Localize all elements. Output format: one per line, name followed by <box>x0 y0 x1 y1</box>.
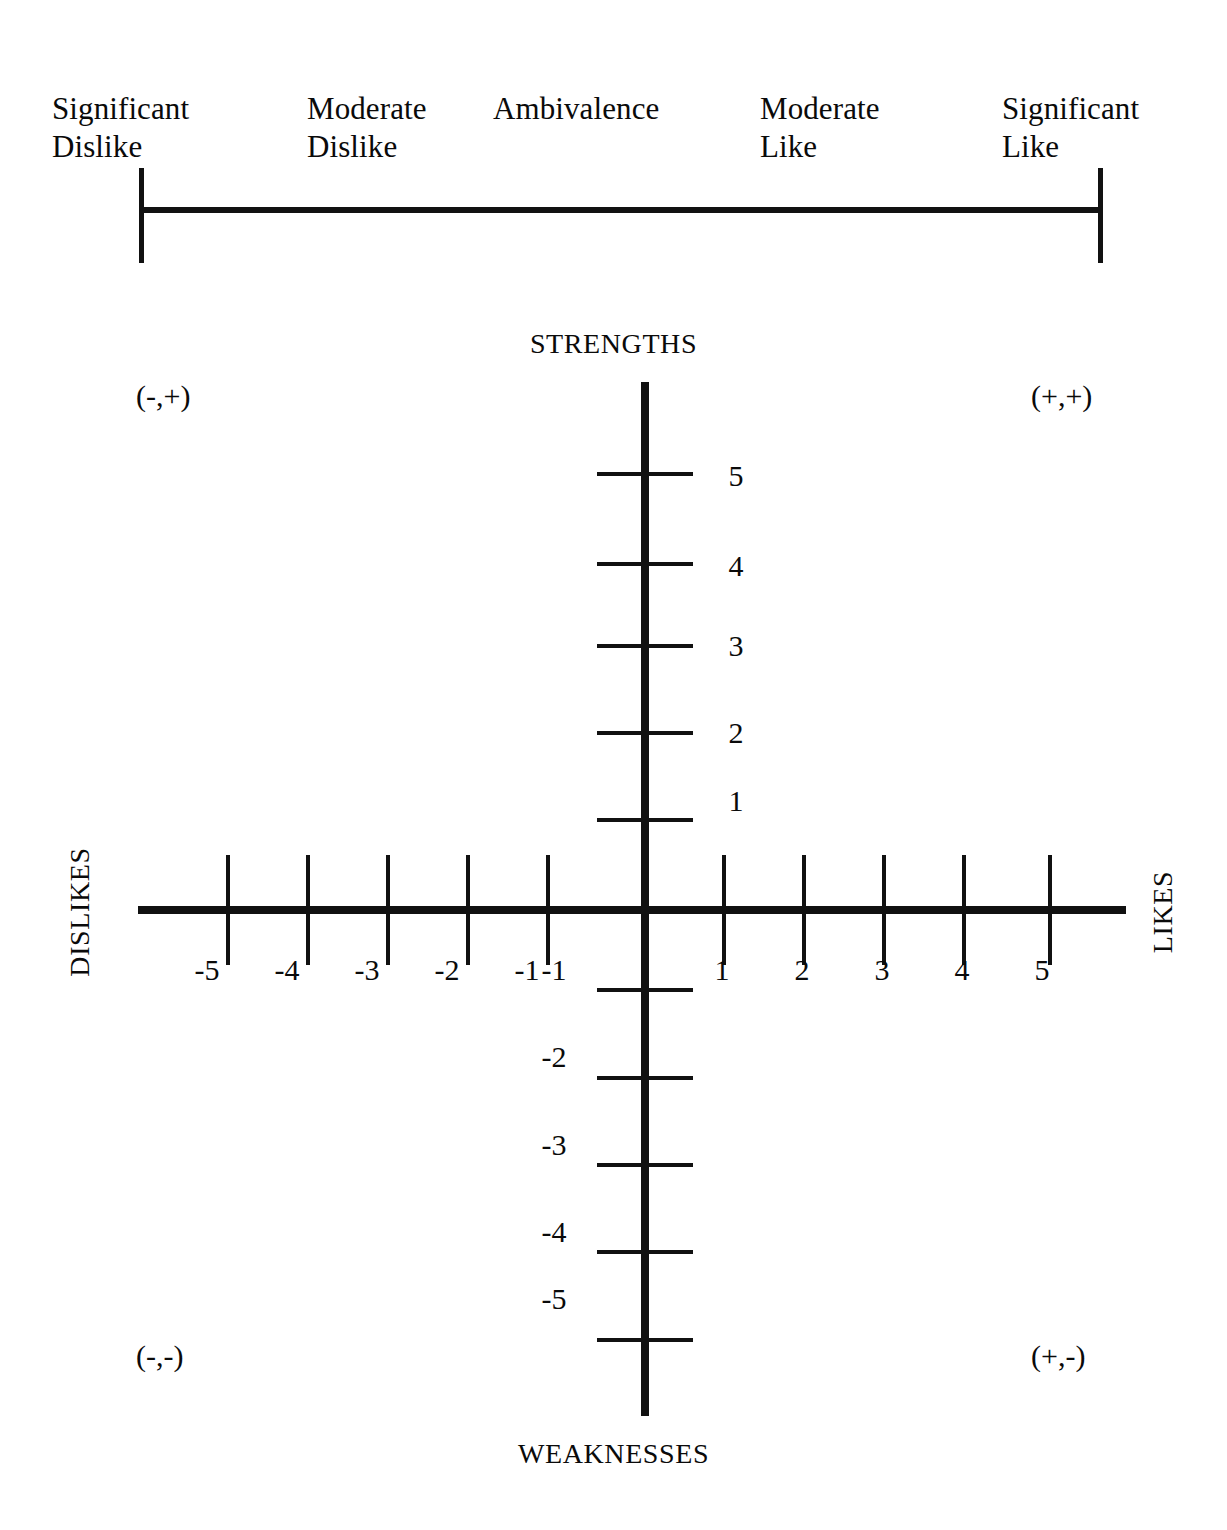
x-tick-mark <box>466 855 470 965</box>
x-tick-mark <box>226 855 230 965</box>
x-tick-mark <box>546 855 550 965</box>
axis-title-weaknesses: WEAKNESSES <box>0 1438 1227 1470</box>
axis-title-dislikes: DISLIKES <box>64 812 96 1012</box>
y-tick-label: 2 <box>705 718 767 748</box>
x-tick-mark <box>386 855 390 965</box>
y-axis-line <box>641 382 649 1416</box>
y-tick-label: 5 <box>705 461 767 491</box>
x-tick-mark <box>306 855 310 965</box>
x-tick-mark <box>722 855 726 965</box>
y-tick-mark <box>597 472 693 476</box>
x-tick-label: -4 <box>257 955 317 985</box>
x-tick-mark <box>802 855 806 965</box>
x-tick-label: -3 <box>337 955 397 985</box>
y-tick-label: -4 <box>523 1217 585 1247</box>
quadrant-grid: STRENGTHS WEAKNESSES DISLIKES LIKES (-,+… <box>0 0 1227 1530</box>
y-tick-mark <box>597 818 693 822</box>
y-tick-mark <box>597 1163 693 1167</box>
y-tick-mark <box>597 1250 693 1254</box>
figure-canvas: Significant Dislike Moderate Dislike Amb… <box>0 0 1227 1530</box>
y-tick-label: 1 <box>705 786 767 816</box>
x-tick-label: 5 <box>1012 955 1072 985</box>
x-tick-label: -2 <box>417 955 477 985</box>
y-tick-label: -2 <box>523 1042 585 1072</box>
y-tick-mark <box>597 562 693 566</box>
y-tick-label: -1 <box>523 955 585 985</box>
y-tick-mark <box>597 1076 693 1080</box>
y-tick-mark <box>597 731 693 735</box>
y-tick-mark <box>597 644 693 648</box>
quadrant-label-bottom-right: (+,-) <box>1031 1339 1085 1373</box>
axis-title-likes: LIKES <box>1147 812 1179 1012</box>
x-tick-label: 2 <box>772 955 832 985</box>
x-tick-label: -5 <box>177 955 237 985</box>
x-axis-line <box>138 906 1126 914</box>
x-tick-mark <box>1048 855 1052 965</box>
x-tick-mark <box>962 855 966 965</box>
y-tick-mark <box>597 1338 693 1342</box>
y-tick-label: -3 <box>523 1130 585 1160</box>
y-tick-label: 4 <box>705 551 767 581</box>
x-tick-label: 1 <box>692 955 752 985</box>
quadrant-label-top-right: (+,+) <box>1031 379 1092 413</box>
axis-title-strengths: STRENGTHS <box>0 328 1227 360</box>
x-tick-mark <box>882 855 886 965</box>
quadrant-label-bottom-left: (-,-) <box>136 1339 183 1373</box>
y-tick-label: -5 <box>523 1284 585 1314</box>
y-tick-mark <box>597 988 693 992</box>
y-tick-label: 3 <box>705 631 767 661</box>
x-tick-label: 3 <box>852 955 912 985</box>
x-tick-label: 4 <box>932 955 992 985</box>
quadrant-label-top-left: (-,+) <box>136 379 190 413</box>
